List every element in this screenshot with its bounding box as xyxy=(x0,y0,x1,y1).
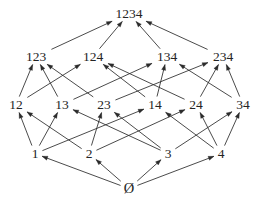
arrowhead-23-to-123 xyxy=(47,64,53,69)
lattice-diagram: 12341231241342341213231424341234Ø xyxy=(0,0,259,208)
arrowhead-12-to-124 xyxy=(75,64,81,69)
node-label-24: 24 xyxy=(189,97,203,112)
arrowhead-4-to-34 xyxy=(235,113,239,119)
node-label-3: 3 xyxy=(165,146,172,161)
node-label-1234: 1234 xyxy=(116,6,143,21)
arrowhead-3-to-23 xyxy=(114,112,120,117)
node-label-134: 134 xyxy=(157,49,178,64)
node-label-14: 14 xyxy=(148,97,162,112)
node-label-23: 23 xyxy=(97,97,111,112)
node-label-124: 124 xyxy=(83,49,104,64)
edge-34-to-134 xyxy=(179,64,231,97)
arrowhead-14-to-124 xyxy=(103,64,109,69)
lattice-svg-canvas: 12341231241342341213231424341234Ø xyxy=(0,0,259,208)
edges-layer xyxy=(19,21,240,185)
arrowhead-1-to-13 xyxy=(53,113,58,119)
node-label-13: 13 xyxy=(55,97,69,112)
node-label-123: 123 xyxy=(26,49,47,64)
arrowhead-2-to-12 xyxy=(27,112,33,117)
arrowhead-34-to-134 xyxy=(179,64,185,69)
arrowhead-3-to-34 xyxy=(226,112,232,117)
arrowhead-24-to-124 xyxy=(108,64,114,68)
edge-24-to-124 xyxy=(108,64,185,100)
edge-23-to-234 xyxy=(115,63,208,100)
arrowhead-1-to-14 xyxy=(138,109,144,113)
nodes-layer: 12341231241342341213231424341234Ø xyxy=(9,6,250,196)
arrowhead-14-to-134 xyxy=(162,65,166,71)
node-label-34: 34 xyxy=(236,97,250,112)
arrowhead-3-to-13 xyxy=(73,110,79,114)
edge-4-to-14 xyxy=(166,112,214,148)
arrowhead-12-to-123 xyxy=(29,65,33,71)
arrowhead-23-to-234 xyxy=(202,63,208,67)
node-label-12: 12 xyxy=(9,97,23,112)
empty-set-symbol: Ø xyxy=(124,180,134,196)
arrowhead-24-to-234 xyxy=(214,65,219,71)
edge-3-to-34 xyxy=(175,112,232,149)
edge-3-to-23 xyxy=(114,112,160,148)
arrowhead-4-to-24 xyxy=(200,113,204,119)
node-label-234: 234 xyxy=(213,49,234,64)
arrowhead-123-to-1234 xyxy=(106,21,112,25)
arrowhead-2-to-24 xyxy=(179,110,185,114)
node-label-1: 1 xyxy=(32,146,39,161)
arrowhead-2-to-23 xyxy=(98,113,102,119)
edge-13-to-134 xyxy=(73,63,152,99)
edge-2-to-24 xyxy=(96,110,185,151)
arrowhead-234-to-1234 xyxy=(146,21,152,25)
edge-1-to-14 xyxy=(42,109,144,151)
node-label-4: 4 xyxy=(218,146,225,161)
edge-234-to-1234 xyxy=(146,21,208,49)
arrowhead-empty-to-4 xyxy=(208,156,214,160)
arrowhead-1-to-12 xyxy=(19,113,23,119)
arrowhead-13-to-123 xyxy=(40,65,45,71)
arrowhead-empty-to-1 xyxy=(42,156,48,160)
arrowhead-34-to-234 xyxy=(226,65,230,71)
edge-2-to-12 xyxy=(27,112,82,149)
node-label-2: 2 xyxy=(86,146,93,161)
arrowhead-13-to-134 xyxy=(146,63,152,67)
